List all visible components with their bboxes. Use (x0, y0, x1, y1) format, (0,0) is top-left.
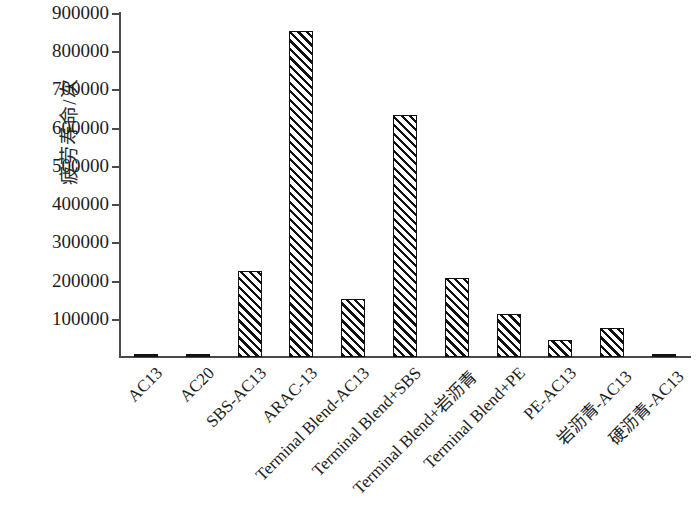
y-tick-label: 900000 (52, 2, 109, 24)
y-tick-mark (112, 89, 120, 91)
plot-area: 1000002000003000004000005000006000007000… (120, 13, 690, 357)
x-tick-label-text: AC20 (176, 362, 220, 406)
y-tick-label: 600000 (52, 117, 109, 139)
y-tick-label: 100000 (52, 308, 109, 330)
bar (289, 31, 313, 357)
y-tick-mark (112, 204, 120, 206)
y-tick-label: 500000 (52, 155, 109, 177)
fatigue-life-bar-chart: 疲劳寿命/次 100000200000300000400000500000600… (0, 0, 696, 529)
y-tick-label: 200000 (52, 270, 109, 292)
y-tick-label: 400000 (52, 193, 109, 215)
y-tick-mark (112, 281, 120, 283)
y-tick-label: 300000 (52, 231, 109, 253)
bar (134, 354, 158, 358)
y-tick-mark (112, 13, 120, 15)
y-tick-mark (112, 166, 120, 168)
x-tick-label-text: AC13 (124, 362, 168, 406)
y-tick-label: 800000 (52, 40, 109, 62)
y-tick-mark (112, 242, 120, 244)
y-tick-mark (112, 319, 120, 321)
y-tick-label: 700000 (52, 78, 109, 100)
y-tick-mark (112, 51, 120, 53)
y-tick-mark (112, 128, 120, 130)
